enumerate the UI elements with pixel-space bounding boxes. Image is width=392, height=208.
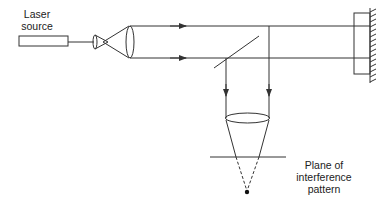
plane-label-line1: Plane of xyxy=(280,159,368,171)
expander-ray-bottom xyxy=(103,42,129,58)
laser-label-line2: source xyxy=(6,20,68,32)
collimating-lens xyxy=(126,26,134,58)
converging-ray-right xyxy=(259,120,269,157)
laser-source-label: Laser source xyxy=(6,8,68,32)
laser-label-line1: Laser xyxy=(6,8,68,20)
plane-label-line2: interference xyxy=(280,171,368,183)
beam-splitter xyxy=(214,36,259,68)
laser-source xyxy=(19,36,68,46)
focal-point xyxy=(245,190,249,194)
dashed-ray-right xyxy=(247,157,259,191)
expander-ray-top xyxy=(103,26,129,42)
converging-ray-left xyxy=(226,120,236,157)
mirror-hatching xyxy=(370,9,376,82)
plane-label-line3: pattern xyxy=(280,183,368,195)
dashed-ray-left xyxy=(236,157,247,191)
reference-block xyxy=(354,13,370,74)
plane-label: Plane of interference pattern xyxy=(280,159,368,195)
focusing-lens xyxy=(226,113,270,123)
